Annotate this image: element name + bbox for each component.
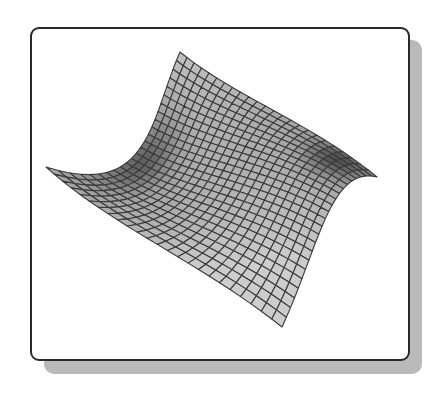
- surface-mesh: [46, 52, 377, 327]
- surface-plot: [0, 0, 443, 394]
